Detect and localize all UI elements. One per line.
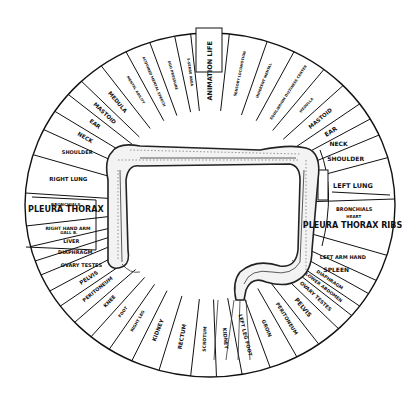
- segment-label: NECK: [77, 131, 95, 145]
- segment-label: 5-SENSE AREA: [186, 58, 194, 87]
- segment-label: RIGHT LEG: [129, 309, 145, 332]
- segment-label: SENSORY LOCOMOTION: [233, 51, 247, 97]
- segment-label: KNEE: [102, 293, 117, 308]
- segment-label: BRONCHIALS: [51, 202, 80, 207]
- segment-label: RECTUM: [177, 323, 188, 349]
- segment-label: GALL B.: [60, 230, 78, 235]
- segment-label: BRONCHIALS: [336, 206, 373, 212]
- segment-label: LEFT LUNG: [333, 182, 373, 190]
- segment-label: ANIMATION LIFE: [206, 41, 214, 100]
- segment-label: SHOULDER: [327, 155, 364, 162]
- segment-label: LIVER: [63, 238, 79, 244]
- segment-label: KIDNEY: [151, 317, 165, 342]
- segment-label: MASTOID: [307, 107, 333, 130]
- segment-label: OVARY TESTES: [61, 262, 103, 268]
- segment-divider: [191, 299, 200, 376]
- segment-divider: [109, 284, 154, 349]
- segment-divider: [214, 300, 217, 377]
- segment-divider: [307, 233, 387, 256]
- segment-label: GROIN: [261, 319, 274, 338]
- segment-label: MEDULLA: [299, 97, 315, 114]
- segment-label: HEART: [346, 214, 361, 219]
- heart-box: [318, 170, 328, 200]
- segment-label: SHOULDER: [62, 149, 93, 155]
- segment-label: NECK: [329, 140, 348, 147]
- colon-illustration: [107, 145, 319, 360]
- segment-label: DIAPHRAGM: [58, 249, 93, 255]
- segment-label: PLEURA THORAX RIBS: [303, 221, 403, 230]
- segment-label: MEDULA: [107, 90, 129, 114]
- segment-label: RIGHT HAND ARM: [45, 226, 91, 231]
- segment-label: KIDNEY: [222, 328, 230, 350]
- segment-label: PERITONEUM: [275, 301, 300, 336]
- left-lung-divider: [320, 150, 390, 246]
- diagram-canvas: ANIMATION LIFESENSORY LOCOMOTIONINHERENT…: [0, 0, 416, 406]
- segment-label: LEFT ARM HAND: [320, 254, 366, 260]
- colon-reflex-diagram: ANIMATION LIFESENSORY LOCOMOTIONINHERENT…: [0, 0, 416, 406]
- segment-label: ACQUIRED MENTAL SPEECH: [141, 56, 166, 107]
- segment-divider: [33, 155, 113, 178]
- segment-divider: [159, 296, 182, 370]
- segment-label: SCROTUM: [202, 326, 208, 352]
- segment-label: LEFT LEG FOOT: [237, 313, 253, 357]
- segment-label: FOOT: [117, 305, 129, 318]
- segment-divider: [81, 81, 139, 137]
- segment-label: SPLEEN: [323, 266, 349, 273]
- segment-label: EAR: [323, 124, 338, 137]
- segment-label: PELVIS: [78, 269, 99, 285]
- segment-label: RIGHT LUNG: [49, 176, 87, 182]
- segment-label: EGO PRESSURE: [167, 60, 179, 91]
